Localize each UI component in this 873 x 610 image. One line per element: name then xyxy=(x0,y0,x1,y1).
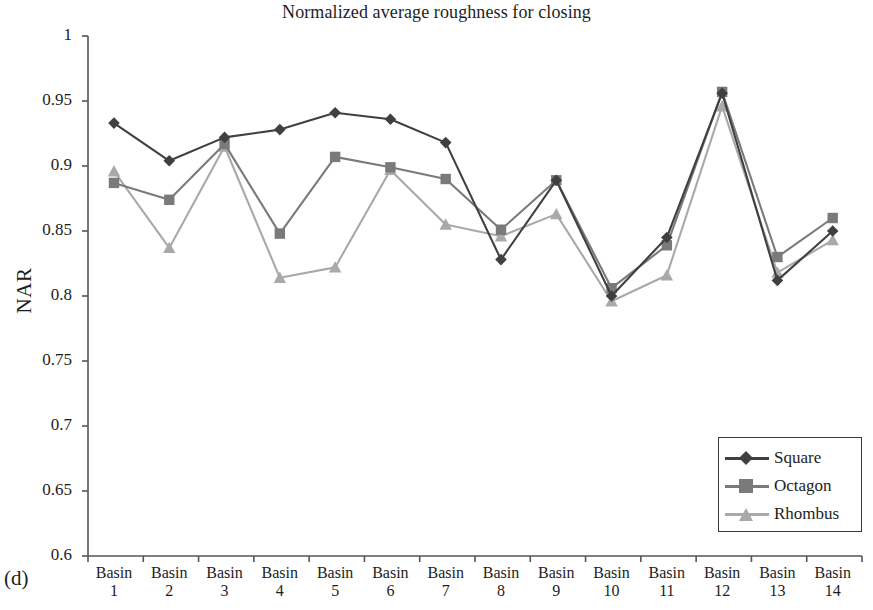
x-tick-label-line: Basin xyxy=(251,564,309,582)
panel-label: (d) xyxy=(4,566,29,591)
x-tick-label-line: 2 xyxy=(140,582,198,600)
x-tick-label: Basin2 xyxy=(140,564,198,600)
x-tick-label-line: Basin xyxy=(638,564,696,582)
x-tick-label-line: Basin xyxy=(85,564,143,582)
series-line xyxy=(114,93,833,296)
x-tick-label: Basin6 xyxy=(361,564,419,600)
x-tick-label-line: 11 xyxy=(638,582,696,600)
y-tick-label: 1 xyxy=(12,25,72,45)
legend-key-triangle-icon xyxy=(725,504,769,524)
x-tick-label: Basin3 xyxy=(196,564,254,600)
x-tick-label-line: 1 xyxy=(85,582,143,600)
x-tick-label: Basin8 xyxy=(472,564,530,600)
x-tick-label-line: Basin xyxy=(583,564,641,582)
x-tick-label-line: Basin xyxy=(140,564,198,582)
data-point-marker xyxy=(164,195,174,205)
data-point-marker xyxy=(163,155,175,167)
x-tick-label-line: Basin xyxy=(306,564,364,582)
data-point-marker xyxy=(329,107,341,119)
x-tick-label-line: Basin xyxy=(693,564,751,582)
y-tick-label: 0.75 xyxy=(12,350,72,370)
data-point-marker xyxy=(108,117,120,129)
x-tick-label: Basin4 xyxy=(251,564,309,600)
x-tick-label-line: 10 xyxy=(583,582,641,600)
y-tick-label: 0.6 xyxy=(12,545,72,565)
x-tick-label-line: 3 xyxy=(196,582,254,600)
y-tick-label: 0.8 xyxy=(12,285,72,305)
y-tick-label: 0.85 xyxy=(12,220,72,240)
data-point-marker xyxy=(772,252,782,262)
series-line xyxy=(114,92,833,288)
legend-key-square-icon xyxy=(725,476,769,496)
chart-legend: SquareOctagonRhombus xyxy=(718,437,862,532)
legend-item-octagon[interactable]: Octagon xyxy=(725,472,861,500)
chart-figure: Normalized average roughness for closing… xyxy=(0,0,873,610)
x-tick-label-line: Basin xyxy=(417,564,475,582)
x-tick-label: Basin14 xyxy=(804,564,862,600)
x-tick-label-line: Basin xyxy=(804,564,862,582)
legend-item-label: Octagon xyxy=(769,476,832,496)
legend-key-marker xyxy=(739,479,753,493)
y-tick-label: 0.65 xyxy=(12,480,72,500)
data-point-marker xyxy=(440,137,452,149)
x-tick-label: Basin12 xyxy=(693,564,751,600)
data-point-marker xyxy=(385,162,395,172)
legend-key-diamond-icon xyxy=(725,448,769,468)
data-point-marker xyxy=(274,124,286,136)
x-tick-label: Basin7 xyxy=(417,564,475,600)
data-point-marker xyxy=(108,165,120,176)
x-tick-label-line: Basin xyxy=(361,564,419,582)
x-tick-label-line: 6 xyxy=(361,582,419,600)
data-point-marker xyxy=(109,178,119,188)
x-tick-label: Basin9 xyxy=(527,564,585,600)
x-tick-label: Basin1 xyxy=(85,564,143,600)
x-tick-label-line: 9 xyxy=(527,582,585,600)
series-square xyxy=(108,87,838,301)
legend-item-label: Square xyxy=(769,448,821,468)
data-point-marker xyxy=(827,213,837,223)
data-point-marker xyxy=(661,269,673,280)
x-tick-label-line: 13 xyxy=(748,582,806,600)
y-tick-label: 0.7 xyxy=(12,415,72,435)
data-point-marker xyxy=(385,113,397,125)
legend-key-marker xyxy=(739,451,753,465)
x-tick-label-line: 4 xyxy=(251,582,309,600)
legend-item-label: Rhombus xyxy=(769,504,839,524)
x-tick-label-line: 12 xyxy=(693,582,751,600)
x-tick-label-line: 5 xyxy=(306,582,364,600)
x-tick-label: Basin5 xyxy=(306,564,364,600)
x-tick-label-line: Basin xyxy=(527,564,585,582)
data-point-marker xyxy=(330,152,340,162)
data-point-marker xyxy=(329,261,341,272)
legend-item-square[interactable]: Square xyxy=(725,444,861,472)
legend-item-rhombus[interactable]: Rhombus xyxy=(725,500,861,528)
data-point-marker xyxy=(440,174,450,184)
x-tick-label: Basin10 xyxy=(583,564,641,600)
data-point-marker xyxy=(550,208,562,219)
data-point-marker xyxy=(496,225,506,235)
data-point-marker xyxy=(275,228,285,238)
x-tick-label-line: Basin xyxy=(472,564,530,582)
x-tick-label-line: Basin xyxy=(748,564,806,582)
x-tick-label-line: 14 xyxy=(804,582,862,600)
y-tick-label: 0.9 xyxy=(12,155,72,175)
x-tick-label-line: 7 xyxy=(417,582,475,600)
x-tick-label: Basin13 xyxy=(748,564,806,600)
x-tick-label-line: 8 xyxy=(472,582,530,600)
x-tick-label: Basin11 xyxy=(638,564,696,600)
x-tick-label-line: Basin xyxy=(196,564,254,582)
y-tick-label: 0.95 xyxy=(12,90,72,110)
